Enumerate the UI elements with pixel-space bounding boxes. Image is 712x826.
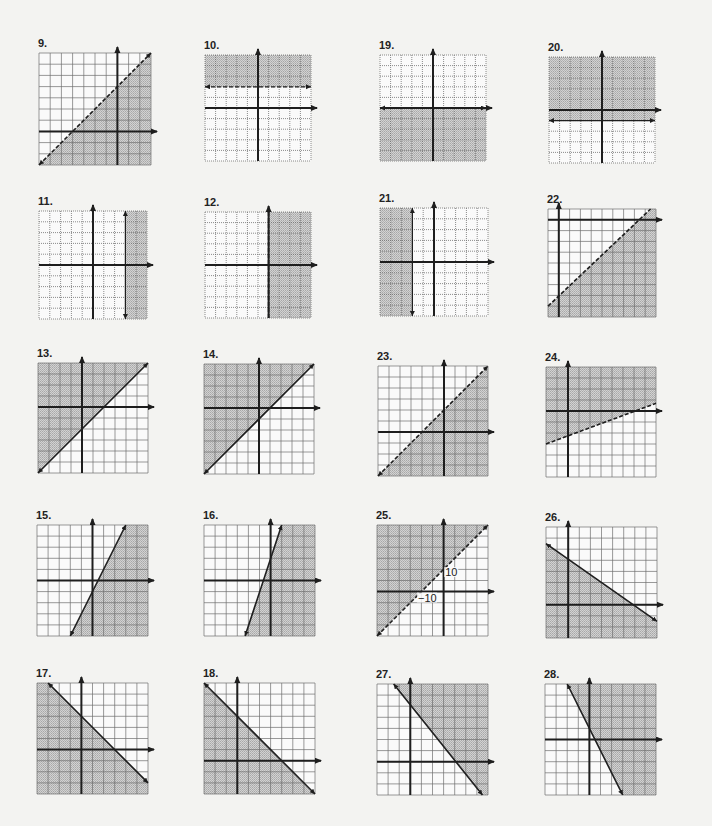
coordinate-plane [371, 359, 495, 483]
coordinate-plane [197, 676, 322, 801]
graph-19: 19. [380, 55, 486, 161]
graph-13: 13. [38, 363, 148, 473]
coordinate-plane [197, 518, 322, 643]
coordinate-plane [198, 48, 318, 168]
coordinate-plane [370, 677, 495, 802]
coordinate-plane [373, 201, 495, 323]
graph-16: 16. [204, 525, 315, 636]
coordinate-plane [197, 357, 321, 481]
coordinate-plane [542, 50, 662, 170]
graph-18: 18. [204, 683, 315, 794]
graph-21: 21. [380, 208, 488, 316]
coordinate-plane [541, 202, 663, 324]
coordinate-plane [31, 356, 155, 480]
graph-12: 12. [205, 212, 311, 318]
coordinate-plane [373, 48, 493, 168]
graph-11: 11. [39, 211, 147, 319]
graph-25: 25.10−10 [377, 525, 488, 636]
graph-28: 28. [545, 684, 656, 795]
graph-14: 14. [204, 364, 314, 474]
graph-10: 10. [205, 55, 311, 161]
graph-23: 23. [378, 366, 488, 476]
coordinate-plane [539, 360, 663, 484]
graph-20: 20. [549, 57, 655, 163]
graph-9: 9. [39, 53, 151, 165]
axis-scale-label: −10 [418, 592, 437, 604]
graph-22: 22. [548, 209, 656, 317]
graph-17: 17. [37, 683, 148, 794]
coordinate-plane [30, 518, 155, 643]
axis-scale-label: 10 [445, 566, 457, 578]
coordinate-plane [539, 520, 664, 645]
coordinate-plane [32, 204, 154, 326]
graph-15: 15. [37, 525, 148, 636]
coordinate-plane [198, 205, 318, 325]
coordinate-plane [30, 676, 155, 801]
graph-27: 27. [377, 684, 488, 795]
graph-24: 24. [546, 367, 656, 477]
coordinate-plane [32, 46, 158, 172]
graph-26: 26. [546, 527, 657, 638]
coordinate-plane: 10−10 [370, 518, 495, 643]
coordinate-plane [538, 677, 663, 802]
